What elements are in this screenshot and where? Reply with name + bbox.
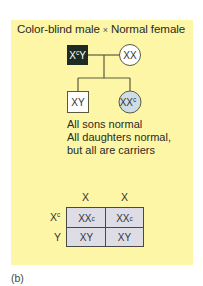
punnett-cell: XXc bbox=[67, 208, 106, 228]
note-line: All sons normal bbox=[67, 118, 171, 131]
punnett-cell: XXc bbox=[105, 208, 144, 228]
father-symbol: XcY bbox=[67, 45, 88, 65]
punnett-cell: XY bbox=[67, 227, 106, 247]
punnett-col-header: X bbox=[121, 191, 128, 203]
offspring-notes: All sons normal All daughters normal, bu… bbox=[67, 118, 171, 157]
son-genotype: XY bbox=[71, 97, 85, 108]
note-line: All daughters normal, bbox=[67, 131, 171, 144]
daughter-symbol: XXc bbox=[119, 91, 141, 113]
punnett-row-header: Y bbox=[54, 231, 61, 243]
punnett-cell: XY bbox=[105, 227, 144, 247]
mother-symbol: XX bbox=[120, 45, 141, 66]
note-line: but all are carriers bbox=[67, 144, 171, 157]
figure-caption: (b) bbox=[11, 272, 24, 284]
punnett-col-header: X bbox=[82, 191, 89, 203]
son-symbol: XY bbox=[68, 92, 89, 113]
punnett-square: XXc XXc XY XY bbox=[66, 207, 144, 247]
mother-genotype: XX bbox=[123, 50, 137, 61]
punnett-row-header: Xc bbox=[50, 211, 60, 223]
